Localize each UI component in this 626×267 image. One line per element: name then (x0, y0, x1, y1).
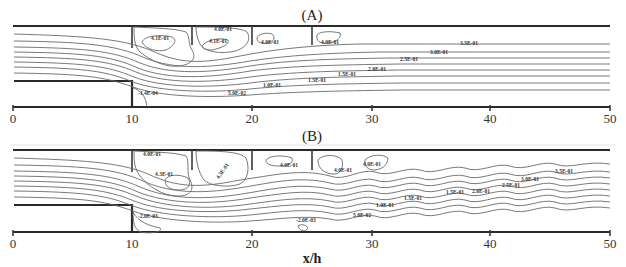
label-b-v2: 4.3E-01 (155, 171, 173, 177)
panel-b: (B) 4.0E-01 4.3E-01 (10, 128, 617, 266)
panel-a: (A) 4. (10, 7, 617, 126)
label-b-v1: 4.0E-01 (143, 151, 161, 157)
label-a-l30: 3.0E-01 (430, 49, 448, 55)
tick-b-40: 40 (484, 236, 497, 251)
tick-a-20: 20 (246, 111, 259, 126)
label-b-v4: 4.0E-01 (280, 162, 298, 168)
tick-b-0: 0 (10, 236, 17, 251)
panel-b-title: (B) (302, 128, 322, 145)
label-a-l15b: 1.5E-01 (308, 77, 326, 83)
tick-a-50: 50 (604, 111, 617, 126)
label-a-v2: 4.0E-01 (214, 26, 232, 32)
tick-b-20: 20 (246, 236, 259, 251)
label-b-v3: 4.3E-01 (215, 162, 230, 180)
tick-b-10: 10 (126, 236, 139, 251)
label-a-l20: 2.0E-01 (368, 66, 386, 72)
label-b-l30: 3.0E-01 (521, 176, 539, 182)
label-b-v6: 4.0E-01 (363, 161, 381, 167)
tick-a-10: 10 (126, 111, 139, 126)
label-b-l15b: 1.5E-01 (404, 195, 422, 201)
step-wall (14, 81, 132, 107)
label-b-l25: 2.5E-01 (502, 182, 520, 188)
label-b-l15a: 1.5E-01 (446, 189, 464, 195)
step-wall (14, 205, 132, 232)
label-a-l25: 2.5E-01 (400, 56, 418, 62)
label-a-v3: 4.1E-01 (209, 38, 227, 44)
label-a-l05: 5.0E-02 (228, 90, 246, 96)
tick-b-50: 50 (604, 236, 617, 251)
label-a-l10: 1.0E-01 (263, 82, 281, 88)
label-b-l10: 1.0E-01 (376, 202, 394, 208)
tick-b-30: 30 (366, 236, 379, 251)
label-b-v5: 4.0E-01 (334, 167, 352, 173)
label-a-neg: -1.4E-04 (138, 90, 158, 96)
tick-a-30: 30 (366, 111, 379, 126)
panel-a-title: (A) (302, 7, 323, 24)
label-b-neg2: -2.0E-03 (296, 217, 316, 223)
x-axis-label: x/h (303, 251, 322, 266)
x-axis-b: 0 10 20 30 40 50 x/h (10, 230, 617, 266)
tick-a-0: 0 (10, 111, 17, 126)
label-b-l35: 3.5E-01 (555, 168, 573, 174)
label-b-l05: 5.0E-02 (353, 212, 371, 218)
label-a-l35: 3.5E-01 (460, 40, 478, 46)
label-a-v1: 4.1E-01 (151, 35, 169, 41)
streamline-figure: (A) 4. (0, 0, 626, 267)
tick-a-40: 40 (484, 111, 497, 126)
label-a-v5: 4.0E-01 (321, 39, 339, 45)
label-a-l15a: 1.5E-01 (338, 71, 356, 77)
label-b-l20: 2.0E-01 (472, 188, 490, 194)
x-axis-a: 0 10 20 30 40 50 (10, 105, 617, 126)
label-a-v4: 4.0E-01 (261, 39, 279, 45)
label-b-neg1: -2.0E-03 (138, 213, 158, 219)
